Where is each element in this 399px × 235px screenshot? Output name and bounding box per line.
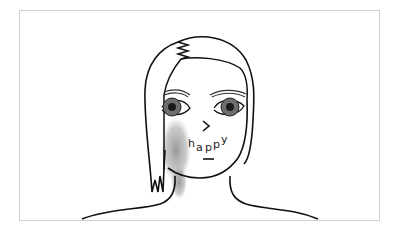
face-illustration: h a p p y — [0, 0, 399, 235]
svg-text:p: p — [213, 138, 220, 151]
right-eyebrow — [210, 90, 246, 97]
svg-text:p: p — [205, 141, 212, 154]
left-eye — [162, 98, 190, 116]
shoulders-outline — [82, 176, 318, 219]
nose — [203, 121, 209, 131]
svg-text:h: h — [188, 137, 195, 150]
hair-part-zigzag — [178, 42, 188, 59]
svg-text:y: y — [221, 133, 228, 146]
happy-text: h a p p y — [188, 133, 228, 154]
hair-outline — [145, 37, 254, 192]
svg-text:a: a — [196, 141, 203, 154]
left-eyebrow — [164, 90, 190, 97]
right-eye — [214, 98, 244, 116]
cheek-shadow — [161, 117, 191, 199]
